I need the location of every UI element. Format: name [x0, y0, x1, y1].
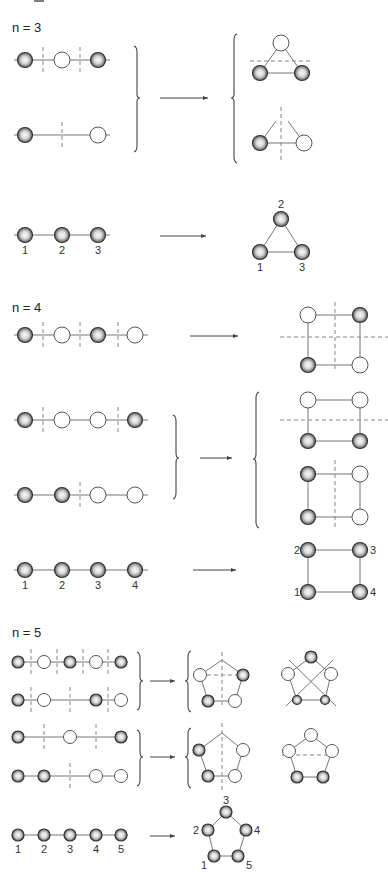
empty-site: [54, 327, 70, 343]
empty-site: [127, 487, 143, 503]
right-brace: [137, 730, 143, 786]
site-number: 5: [118, 843, 124, 855]
svg-text:3: 3: [299, 261, 305, 273]
empty-site: [90, 656, 103, 669]
filled-site: [128, 413, 143, 428]
empty-site: [115, 694, 128, 707]
empty-site: [54, 52, 70, 68]
dynamic-chains: 123123412345: [12, 47, 238, 855]
left-brace: [185, 651, 191, 712]
filled-site: [64, 656, 76, 668]
triangle-horizontal-cut: [250, 35, 312, 81]
filled-site: [18, 488, 33, 503]
pentagon-labeled: 3 2 4 1 5: [193, 794, 260, 871]
left-brace: [185, 728, 191, 788]
filled-site: [18, 563, 33, 578]
site-number: 1: [15, 843, 21, 855]
empty-site: [296, 135, 312, 151]
empty-site: [64, 731, 77, 744]
empty-site: [115, 770, 128, 783]
filled-site: [90, 694, 102, 706]
svg-text:2: 2: [294, 544, 300, 556]
section-label-n3: n = 3: [12, 20, 41, 35]
filled-site: [115, 731, 127, 743]
empty-site: [90, 127, 106, 143]
empty-site: [90, 412, 106, 428]
filled-site: [91, 563, 106, 578]
filled-site: [18, 228, 33, 243]
section-label-n4: n = 4: [12, 300, 41, 315]
filled-site: [12, 770, 24, 782]
site-number: 3: [95, 579, 101, 591]
triangle-vertical-cut: [253, 107, 313, 163]
filled-site: [64, 829, 76, 841]
right-brace: [137, 652, 143, 710]
empty-site: [90, 770, 103, 783]
filled-site: [115, 829, 127, 841]
section-label-n5: n = 5: [12, 625, 41, 640]
empty-site: [273, 35, 289, 51]
square-horizontal-cut: [280, 392, 388, 449]
pentagon-diagonal-cut: [282, 651, 338, 706]
filled-site: [253, 66, 268, 81]
ring-closure-diagram: n = 3 n = 4 n = 5 123123412345 2 1 3: [0, 0, 388, 879]
pentagon-vertical-cut: [193, 723, 250, 790]
site-number: 4: [132, 579, 138, 591]
svg-text:1: 1: [257, 261, 263, 273]
svg-text:3: 3: [370, 544, 376, 556]
site-number: 1: [22, 244, 28, 256]
filled-site: [253, 136, 268, 151]
site-number: 3: [67, 843, 73, 855]
svg-text:2: 2: [278, 198, 284, 210]
site-number: 2: [41, 843, 47, 855]
right-brace: [134, 46, 140, 152]
empty-site: [90, 487, 106, 503]
empty-site: [127, 327, 143, 343]
filled-site: [55, 228, 70, 243]
site-number: 2: [59, 244, 65, 256]
svg-text:5: 5: [246, 859, 252, 871]
square-labeled: 2 3 1 4: [294, 543, 376, 600]
filled-site: [115, 656, 127, 668]
square-cross-cut: [280, 302, 388, 373]
right-brace: [173, 415, 179, 499]
svg-text:2: 2: [193, 824, 199, 836]
filled-site: [295, 66, 310, 81]
filled-site: [91, 228, 106, 243]
site-number: 2: [59, 579, 65, 591]
filled-site: [12, 656, 24, 668]
filled-site: [128, 563, 143, 578]
filled-site: [18, 128, 33, 143]
left-brace: [231, 34, 237, 163]
svg-text:4: 4: [370, 586, 376, 598]
filled-site: [91, 53, 106, 68]
svg-text:4: 4: [254, 824, 260, 836]
filled-site: [90, 829, 102, 841]
site-number: 4: [93, 843, 99, 855]
pentagon-horizontal-cut: [282, 729, 339, 784]
empty-site: [38, 656, 51, 669]
filled-site: [91, 328, 106, 343]
filled-site: [12, 694, 24, 706]
svg-text:3: 3: [223, 794, 229, 806]
filled-site: [18, 53, 33, 68]
triangle-labeled: 2 1 3: [253, 198, 310, 273]
filled-site: [12, 829, 24, 841]
empty-site: [38, 694, 51, 707]
square-vertical-cut: [301, 460, 369, 530]
site-number: 3: [95, 244, 101, 256]
filled-site: [55, 488, 70, 503]
empty-site: [54, 412, 70, 428]
filled-site: [38, 829, 50, 841]
svg-text:1: 1: [201, 859, 207, 871]
filled-site: [12, 731, 24, 743]
left-brace: [253, 392, 259, 528]
site-number: 1: [22, 579, 28, 591]
filled-site: [18, 328, 33, 343]
filled-site: [55, 563, 70, 578]
filled-site: [38, 770, 50, 782]
filled-site: [18, 413, 33, 428]
svg-text:1: 1: [294, 586, 300, 598]
pentagon-cross-cut: [194, 652, 250, 708]
